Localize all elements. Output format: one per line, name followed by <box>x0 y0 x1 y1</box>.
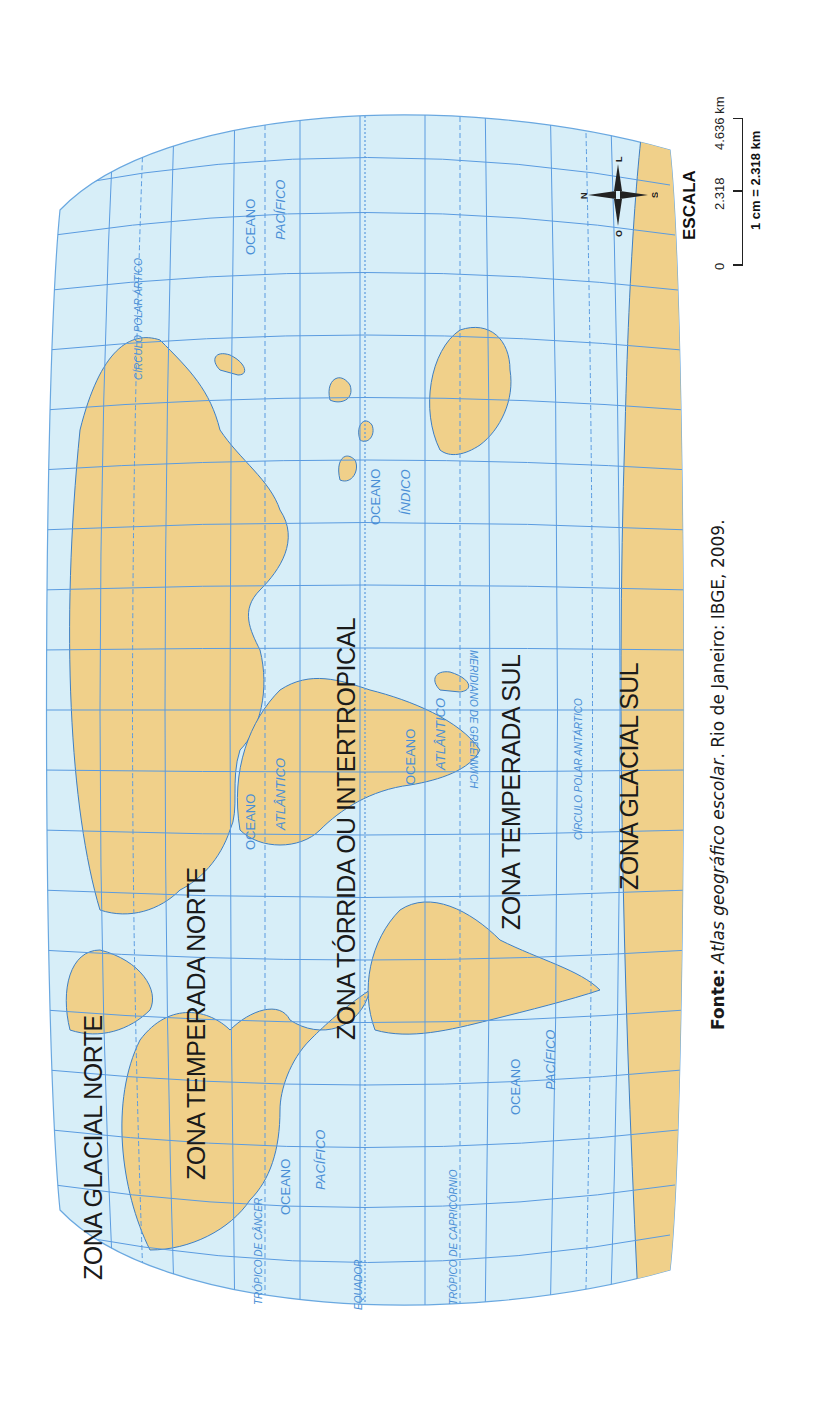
greenwich-label: MERIDIANO DE GREENWICH <box>468 650 479 789</box>
scale-unit: 1 cm = 2.318 km <box>748 131 763 230</box>
arctic-circle-label: CÍRCULO POLAR ÁRTICO <box>132 258 144 380</box>
tropic-cancer-label: TRÓPICO DE CÂNCER <box>252 1198 264 1305</box>
source-caption: Fonte: Atlas geográfico escolar. Rio de … <box>708 519 728 1030</box>
source-label: Fonte: <box>708 969 728 1030</box>
svg-text:O: O <box>614 230 624 237</box>
scale-bar: ESCALA 0 2.318 4.636 km 1 cm = 2.318 km <box>660 80 780 280</box>
source-rest: . Rio de Janeiro: IBGE, 2009. <box>708 519 728 758</box>
scale-line <box>730 118 743 266</box>
ocean-label: OCEANO <box>243 199 258 255</box>
ocean-label: ATLÂNTICO <box>433 698 448 771</box>
ocean-label: OCEANO <box>368 469 383 525</box>
ocean-label: ATLÂNTICO <box>273 758 288 831</box>
zone-glacial-sul: ZONA GLACIAL SUL <box>615 662 643 890</box>
zone-temperada-sul: ZONA TEMPERADA SUL <box>497 654 525 930</box>
ocean-label: PACÍFICO <box>313 1130 328 1190</box>
zone-torrida: ZONA TÓRRIDA OU INTERTROPICAL <box>332 617 360 1040</box>
zone-glacial-norte: ZONA GLACIAL NORTE <box>79 1015 107 1280</box>
scale-tick-label: 0 <box>712 263 727 270</box>
svg-text:N: N <box>579 193 589 200</box>
zone-temperada-norte: ZONA TEMPERADA NORTE <box>182 867 210 1180</box>
rotated-page: ZONA GLACIAL NORTE ZONA TEMPERADA NORTE … <box>0 0 819 1420</box>
svg-text:S: S <box>650 192 658 198</box>
svg-text:L: L <box>614 156 624 162</box>
ocean-label: OCEANO <box>508 1059 523 1115</box>
compass-rose-icon: N S L O <box>578 150 658 240</box>
scale-title: ESCALA <box>680 170 700 240</box>
ocean-label: PACÍFICO <box>543 1030 558 1090</box>
world-map: ZONA GLACIAL NORTE ZONA TEMPERADA NORTE … <box>40 90 690 1330</box>
ocean-label: OCEANO <box>278 1159 293 1215</box>
scale-tick-label: 4.636 km <box>712 97 727 150</box>
ocean-label: OCEANO <box>243 794 258 850</box>
antarctic-circle-label: CÍRCULO POLAR ANTÁRTICO <box>572 698 584 840</box>
source-title: Atlas geográfico escolar <box>708 759 728 964</box>
equator-label: EQUADOR <box>353 1259 364 1310</box>
ocean-label: ÍNDICO <box>398 470 413 516</box>
ocean-label: PACÍFICO <box>273 180 288 240</box>
ocean-label: OCEANO <box>403 729 418 785</box>
scale-tick-label: 2.318 <box>712 177 727 210</box>
tropic-capricorn-label: TRÓPICO DE CAPRICÓRNIO <box>447 1169 459 1305</box>
